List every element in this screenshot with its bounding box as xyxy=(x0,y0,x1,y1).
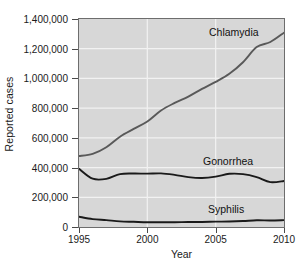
series-lines xyxy=(79,33,284,223)
y-tick-label: 1,400,000 xyxy=(24,14,69,25)
chart-figure: Reported cases 0200,000400,000600,000800… xyxy=(0,0,300,262)
y-tick-label: 800,000 xyxy=(32,103,68,114)
series-label-gonorrhea: Gonorrhea xyxy=(203,155,253,167)
y-tick-mark xyxy=(72,138,78,139)
x-tick-label: 2005 xyxy=(205,234,227,245)
y-tick-label: 600,000 xyxy=(32,132,68,143)
y-tick-label: 400,000 xyxy=(32,162,68,173)
series-line-gonorrhea xyxy=(79,169,284,183)
series-label-chlamydia: Chlamydia xyxy=(209,26,259,38)
y-axis-tick-labels: 0200,000400,000600,000800,0001,000,0001,… xyxy=(14,18,72,228)
y-tick-mark xyxy=(72,78,78,79)
y-tick-label: 0 xyxy=(62,222,68,233)
y-tick-mark xyxy=(72,227,78,228)
x-tick-label: 1995 xyxy=(68,234,90,245)
y-tick-label: 1,200,000 xyxy=(24,43,69,54)
y-tick-label: 1,000,000 xyxy=(24,73,69,84)
y-tick-mark xyxy=(72,49,78,50)
x-axis-title: Year xyxy=(78,248,285,260)
y-tick-mark xyxy=(72,197,78,198)
x-tick-mark xyxy=(284,228,285,233)
y-tick-mark xyxy=(72,108,78,109)
x-tick-mark xyxy=(147,228,148,233)
series-line-syphilis xyxy=(79,217,284,223)
series-label-syphilis: Syphilis xyxy=(208,203,244,215)
y-tick-mark xyxy=(72,19,78,20)
x-tick-mark xyxy=(216,228,217,233)
y-tick-mark xyxy=(72,168,78,169)
y-tick-label: 200,000 xyxy=(32,192,68,203)
x-tick-mark xyxy=(79,228,80,233)
x-tick-label: 2000 xyxy=(136,234,158,245)
plot-svg xyxy=(79,19,284,227)
plot-area xyxy=(78,18,285,228)
x-tick-label: 2010 xyxy=(273,234,295,245)
